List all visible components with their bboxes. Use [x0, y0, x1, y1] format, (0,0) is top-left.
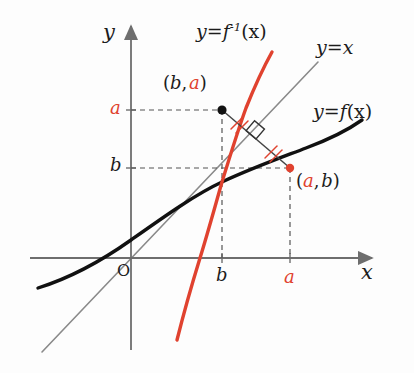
point-b-a-first: b: [170, 72, 182, 93]
inverse-arg: (x): [241, 20, 267, 42]
x-tick-label-b: b: [216, 266, 228, 284]
point-a-b-second: b: [321, 170, 333, 191]
origin-label: O: [117, 263, 130, 279]
x-axis-label: x: [361, 262, 373, 283]
label-y-equals-f-inverse-x: y=f-1(x): [196, 22, 267, 41]
point-dot-a-b: [286, 164, 294, 172]
y-axis-label: y: [103, 22, 115, 43]
math-figure: y x O y=f-1(x) y=x y=f(x) (b, a) (a, b) …: [0, 0, 414, 373]
label-y-equals-x: y=x: [316, 38, 353, 57]
forward-arg: (x): [347, 100, 373, 122]
y-tick-label-a: a: [110, 99, 121, 117]
point-label-a-b: (a, b): [296, 172, 340, 190]
point-label-b-a: (b, a): [163, 74, 207, 92]
y-tick-label-b: b: [110, 156, 122, 174]
point-a-b-first: a: [303, 170, 314, 191]
point-b-a-second: a: [189, 72, 200, 93]
right-angle-icon: [246, 121, 264, 139]
x-tick-label-a: a: [284, 268, 295, 286]
label-y-equals-f-x: y=f(x): [313, 102, 372, 121]
point-dot-b-a: [217, 105, 226, 114]
